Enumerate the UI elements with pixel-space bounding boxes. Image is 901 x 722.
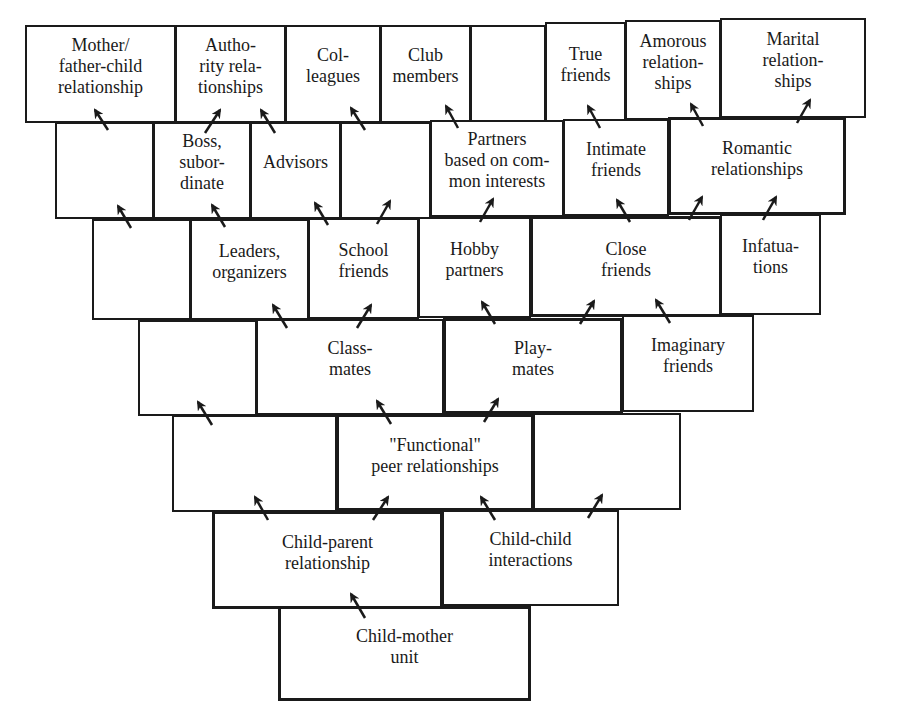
box-marital: Marital relation- ships: [720, 18, 866, 118]
box-label: Close friends: [601, 219, 651, 281]
box-advisors: Advisors: [250, 122, 341, 219]
box-row4-empty: [138, 320, 257, 416]
box-label: Child-mother unit: [356, 609, 453, 668]
box-label: Autho- rity rela- tionships: [198, 27, 263, 98]
box-label: Infatua- tions: [742, 216, 799, 278]
box-label: Child-parent relationship: [282, 514, 373, 574]
box-romantic: Romantic relationships: [668, 117, 846, 215]
box-row3-empty: [92, 219, 191, 320]
box-label: "Functional" peer relationships: [371, 417, 498, 477]
relationship-development-diagram: Mother/ father-child relationshipAutho- …: [0, 0, 901, 722]
box-label: Child-child interactions: [489, 512, 573, 571]
box-child-child: Child-child interactions: [442, 510, 619, 606]
box-label: Club members: [393, 27, 459, 87]
box-label: Boss, subor- dinate: [179, 124, 225, 194]
box-label: Romantic relationships: [711, 120, 803, 180]
box-label: Hobby partners: [446, 219, 504, 281]
box-label: Intimate friends: [586, 121, 646, 181]
box-functional-peer: "Functional" peer relationships: [336, 414, 534, 511]
box-label: Leaders, organizers: [212, 221, 287, 283]
box-label: School friends: [338, 220, 388, 282]
box-boss-subordinate: Boss, subor- dinate: [153, 122, 251, 219]
box-row5-empty-a: [172, 415, 337, 512]
box-classmates: Class- mates: [256, 319, 444, 415]
box-authority: Autho- rity rela- tionships: [175, 25, 286, 123]
box-colleagues: Col- leagues: [285, 25, 381, 123]
box-mother-father-child: Mother/ father-child relationship: [25, 25, 176, 123]
box-child-mother-unit: Child-mother unit: [278, 606, 531, 701]
box-playmates: Play- mates: [443, 318, 623, 414]
box-row1-empty: [470, 25, 546, 123]
box-child-parent: Child-parent relationship: [212, 511, 443, 609]
box-close-friends: Close friends: [530, 216, 722, 317]
box-intimate-friends: Intimate friends: [563, 119, 669, 216]
box-partners-common-interests: Partners based on com- mon interests: [430, 120, 564, 217]
box-label: Class- mates: [328, 321, 373, 380]
box-hobby-partners: Hobby partners: [418, 217, 531, 318]
box-label: Imaginary friends: [651, 317, 725, 377]
box-club-members: Club members: [380, 25, 471, 123]
box-label: Amorous relation- ships: [640, 22, 707, 94]
box-label: Advisors: [263, 124, 328, 173]
box-row2-empty-b: [340, 122, 431, 219]
box-true-friends: True friends: [545, 22, 626, 123]
box-label: Col- leagues: [306, 27, 360, 87]
box-label: Play- mates: [512, 321, 554, 380]
box-amorous: Amorous relation- ships: [625, 20, 721, 120]
box-row2-empty-a: [55, 122, 154, 219]
box-label: Mother/ father-child relationship: [58, 27, 143, 98]
box-infatuations: Infatua- tions: [720, 214, 821, 315]
box-label: Partners based on com- mon interests: [445, 122, 550, 192]
box-label: Marital relation- ships: [763, 20, 824, 92]
box-imaginary-friends: Imaginary friends: [622, 315, 754, 412]
box-school-friends: School friends: [308, 218, 419, 319]
box-row5-empty-b: [533, 413, 681, 510]
box-label: True friends: [561, 24, 611, 86]
box-leaders-organizers: Leaders, organizers: [190, 219, 309, 320]
